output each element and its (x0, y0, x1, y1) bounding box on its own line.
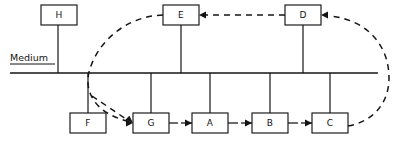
dashed-edge-c-to-d-curve (330, 16, 389, 126)
node-c[interactable]: C (312, 113, 348, 133)
arrow-b-to-c (288, 119, 312, 126)
node-g[interactable]: G (133, 113, 169, 133)
node-b[interactable]: B (252, 113, 288, 133)
node-label-e: E (178, 10, 184, 20)
arrow-a-to-b-head (245, 119, 252, 126)
node-f[interactable]: F (70, 113, 106, 133)
dashed-edge-c-to-d (321, 11, 389, 126)
arrow-b-to-c-head (305, 119, 312, 126)
node-d[interactable]: D (285, 5, 321, 25)
node-label-f: F (85, 118, 90, 128)
node-label-d: D (299, 10, 306, 20)
node-h[interactable]: H (41, 5, 77, 25)
dashed-edge-e-to-g-curve (88, 15, 163, 121)
diagram-canvas: Medium HEDFGABC (0, 0, 407, 144)
node-label-b: B (267, 118, 273, 128)
dashed-edge-c-to-d-head (321, 11, 328, 18)
node-boxes-group: HEDFGABC (41, 5, 348, 133)
dashed-edge-e-to-g (88, 15, 163, 127)
process-flow-diagram: Medium HEDFGABC (0, 0, 407, 144)
node-label-a: A (207, 118, 214, 128)
arrow-g-to-a (169, 119, 192, 126)
dashed-feedback-group (88, 11, 389, 126)
node-label-c: C (327, 118, 333, 128)
node-stems-group (58, 25, 330, 113)
arrow-g-to-a-head (185, 119, 192, 126)
solid-arrows-group (169, 119, 312, 126)
node-label-h: H (56, 10, 63, 20)
medium-axis-label: Medium (10, 52, 48, 63)
arrow-a-to-b (228, 119, 252, 126)
node-a[interactable]: A (192, 113, 228, 133)
node-label-g: G (147, 118, 154, 128)
dashed-edge-d-to-e (199, 11, 285, 18)
medium-axis-group: Medium (10, 52, 55, 64)
node-e[interactable]: E (163, 5, 199, 25)
dashed-edge-d-to-e-head (199, 11, 206, 18)
